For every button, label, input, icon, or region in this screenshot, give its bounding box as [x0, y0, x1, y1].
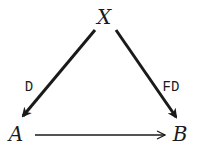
edge-label-d: D — [25, 80, 33, 94]
arrow-x-to-a — [23, 30, 95, 116]
node-x: X — [97, 7, 111, 27]
edge-label-fd: FD — [163, 80, 180, 94]
arrow-x-to-b — [116, 30, 176, 117]
node-b: B — [173, 124, 188, 144]
node-a: A — [9, 124, 23, 144]
commutative-diagram: X A B D FD — [0, 0, 197, 147]
